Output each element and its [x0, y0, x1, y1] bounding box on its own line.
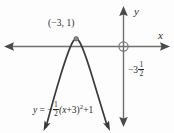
equation-minus-sign: − [47, 105, 52, 115]
parabola-figure: x y (−3, 1) −312 y = −12(x+3)2+1 [0, 0, 174, 133]
equation-coefficient-fraction: 12 [53, 101, 59, 117]
vertex-coordinate-label: (−3, 1) [48, 19, 75, 29]
equation-fraction-numerator: 1 [53, 101, 59, 109]
y-axis-label: y [134, 6, 139, 17]
equation-lhs: y [33, 105, 37, 115]
equation-constant-term: +1 [83, 105, 93, 115]
y-axis-top-arrow-icon [119, 6, 128, 16]
equation-label: y = −12(x+3)2+1 [33, 101, 93, 117]
x-axis-right-arrow-icon [160, 42, 170, 51]
equation-fraction-denominator: 2 [53, 109, 59, 118]
x-axis-left-arrow-icon [4, 42, 14, 51]
y-intercept-fraction: 12 [138, 61, 144, 77]
y-intercept-denominator: 2 [138, 69, 144, 78]
equation-equals-sign: = [40, 105, 45, 115]
x-axis-label: x [158, 30, 163, 41]
y-intercept-whole-part: −3 [128, 65, 138, 75]
y-axis-bottom-arrow-icon [119, 117, 128, 127]
equation-binomial-close: 3) [72, 105, 80, 115]
y-intercept-numerator: 1 [138, 61, 144, 69]
vertex-point-marker [74, 37, 78, 41]
y-intercept-label: −312 [128, 61, 145, 77]
